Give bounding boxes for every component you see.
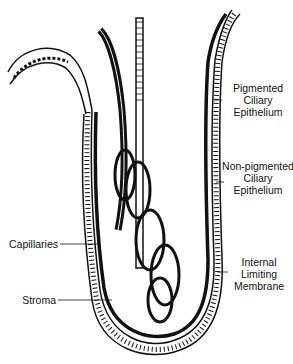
- label-nonpigmented-ciliary-epithelium: Non-pigmented Ciliary Epithelium: [222, 160, 293, 196]
- label-capillaries: Capillaries: [4, 238, 58, 250]
- label-internal-limiting-membrane: Internal Limiting Membrane: [228, 256, 290, 292]
- label-line: Internal: [228, 256, 290, 268]
- label-pigmented-ciliary-epithelium: Pigmented Ciliary Epithelium: [224, 82, 292, 118]
- label-line: Membrane: [228, 280, 290, 292]
- diagram-canvas: Pigmented Ciliary Epithelium Non-pigment…: [0, 0, 293, 364]
- label-line: Ciliary: [222, 172, 293, 184]
- label-line: Ciliary: [224, 94, 292, 106]
- label-stroma: Stroma: [10, 294, 56, 306]
- label-line: Epithelium: [222, 184, 293, 196]
- label-line: Non-pigmented: [222, 160, 293, 172]
- label-line: Limiting: [228, 268, 290, 280]
- label-line: Epithelium: [224, 106, 292, 118]
- label-line: Pigmented: [224, 82, 292, 94]
